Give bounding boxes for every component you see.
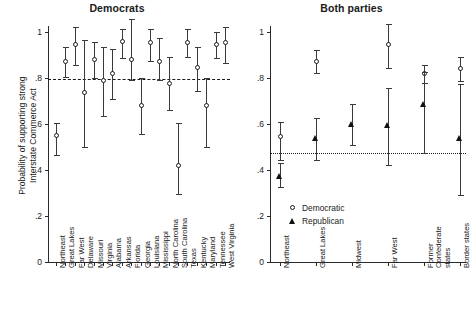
y-tick-label: .4: [22, 166, 42, 175]
x-tick-mark: [197, 263, 198, 266]
error-bar-cap-top: [386, 24, 392, 25]
data-point-circle: [92, 57, 97, 62]
data-point-circle: [185, 40, 190, 45]
error-bar-cap-bottom: [139, 134, 145, 135]
x-tick-mark: [187, 263, 188, 266]
x-tick-mark: [352, 263, 353, 266]
error-bar-cap-bottom: [204, 147, 210, 148]
y-axis: [270, 26, 271, 263]
error-bar-cap-bottom: [73, 65, 79, 66]
x-category-label: North Carolina: [172, 219, 180, 268]
error-bar-cap-top: [278, 163, 284, 164]
y-tick-mark: [267, 32, 270, 33]
error-bar-cap-bottom: [422, 153, 428, 154]
data-point-triangle: [276, 173, 282, 179]
panel-democrats: Democrats Probability of supporting stro…: [0, 0, 234, 321]
error-bar-cap-top: [185, 29, 191, 30]
x-tick-mark: [84, 263, 85, 266]
data-point-circle: [148, 40, 153, 45]
y-tick-mark: [267, 170, 270, 171]
open-circle-icon: [290, 205, 295, 210]
error-bar-cap-top: [458, 57, 464, 58]
error-bar-cap-top: [148, 29, 154, 30]
y-tick-label: .4: [244, 166, 264, 175]
x-tick-mark: [216, 263, 217, 266]
y-tick-label: .8: [244, 74, 264, 83]
error-bar-cap-bottom: [223, 63, 229, 64]
error-bar-cap-bottom: [54, 155, 60, 156]
error-bar-cap-top: [157, 38, 163, 39]
error-bar-cap-bottom: [101, 116, 107, 117]
legend-label-republican: Republican: [302, 216, 344, 226]
x-category-label: Great Lakes: [319, 227, 327, 268]
x-tick-mark: [131, 263, 132, 266]
error-bar-cap-top: [54, 123, 60, 124]
error-bar-cap-top: [386, 88, 392, 89]
error-bar-cap-bottom: [157, 80, 163, 81]
data-point-circle: [139, 103, 144, 108]
data-point-triangle: [420, 101, 426, 107]
data-point-circle: [195, 65, 200, 70]
error-bar-cap-top: [350, 104, 356, 105]
y-tick-label: 0: [244, 258, 264, 267]
error-bar-cap-top: [129, 19, 135, 20]
plot-area-democrats: 0.2.4.6.81NortheastGreat LakesFar WestDe…: [0, 0, 234, 321]
y-tick-label: 0: [22, 258, 42, 267]
error-bar-cap-top: [73, 27, 79, 28]
data-point-circle: [314, 59, 319, 64]
x-tick-mark: [56, 263, 57, 266]
y-tick-label: 1: [22, 28, 42, 37]
error-bar: [131, 19, 132, 80]
x-tick-mark: [460, 263, 461, 266]
y-axis: [48, 26, 49, 263]
x-tick-mark: [206, 263, 207, 266]
y-tick-mark: [45, 32, 48, 33]
x-tick-mark: [122, 263, 123, 266]
error-bar: [280, 122, 281, 160]
error-bar-cap-bottom: [120, 58, 126, 59]
data-point-circle: [167, 81, 172, 86]
data-point-circle: [176, 163, 181, 168]
error-bar-cap-bottom: [350, 145, 356, 146]
x-tick-mark: [94, 263, 95, 266]
error-bar: [56, 123, 57, 155]
y-tick-mark: [267, 78, 270, 79]
error-bar-cap-top: [167, 57, 173, 58]
error-bar-cap-bottom: [82, 147, 88, 148]
error-bar: [225, 27, 226, 63]
error-bar-cap-bottom: [148, 61, 154, 62]
error-bar: [424, 72, 425, 153]
error-bar-cap-top: [176, 123, 182, 124]
x-category-label: Great Lakes: [68, 227, 76, 268]
x-tick-mark: [424, 263, 425, 266]
error-bar-cap-top: [422, 72, 428, 73]
data-point-circle: [458, 66, 463, 71]
error-bar-cap-top: [422, 65, 428, 66]
legend-label-democratic: Democratic: [302, 203, 344, 213]
data-point-circle: [223, 40, 228, 45]
error-bar-cap-bottom: [185, 57, 191, 58]
y-tick-label: .2: [244, 212, 264, 221]
error-bar-cap-top: [458, 84, 464, 85]
data-point-circle: [386, 42, 391, 47]
error-bar-cap-bottom: [458, 195, 464, 196]
data-point-triangle: [456, 135, 462, 141]
error-bar-cap-top: [278, 122, 284, 123]
data-point-triangle: [384, 122, 390, 128]
data-point-circle: [73, 42, 78, 47]
x-tick-mark: [388, 263, 389, 266]
x-tick-mark: [103, 263, 104, 266]
error-bar: [206, 78, 207, 147]
error-bar-cap-bottom: [129, 80, 135, 81]
x-tick-mark: [65, 263, 66, 266]
reference-line-dashed: [48, 79, 230, 80]
error-bar-cap-bottom: [92, 78, 98, 79]
error-bar-cap-top: [82, 40, 88, 41]
y-tick-mark: [267, 262, 270, 263]
error-bar-cap-top: [204, 78, 210, 79]
error-bar-cap-bottom: [167, 110, 173, 111]
data-point-circle: [157, 59, 162, 64]
error-bar-cap-bottom: [278, 187, 284, 188]
panel-both-parties: Both parties 0.2.4.6.81NortheastGreat La…: [234, 0, 469, 321]
